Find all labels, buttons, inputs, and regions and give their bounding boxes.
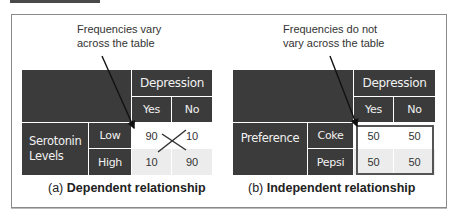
note-line: vary across the table [283,36,385,50]
column-header-no: No [394,97,435,122]
column-group-header: Depression [132,70,212,96]
column-header-yes: Yes [354,97,393,122]
corner-cell [22,70,131,122]
row-group-line: Levels [29,149,64,164]
note-line: across the table [77,36,161,50]
caption-independent: (b) Independent relationship [248,181,415,195]
caption-title: Dependent relationship [67,181,206,195]
caption-prefix: (b) [248,181,263,195]
caption-prefix: (a) [48,181,63,195]
panel-independent: Frequencies do not vary across the table… [229,15,446,207]
row-group-header: Preference [233,123,307,175]
highlight-box [356,125,434,175]
caption-dependent: (a) Dependent relationship [48,181,206,195]
contingency-table-independent: Depression Yes No Preference Coke Pepsi … [233,70,435,175]
row-group-line: Serotonin [29,134,82,149]
row-header-pepsi: Pepsi [308,149,353,175]
note-line: Frequencies vary [77,22,161,36]
caption-title: Independent relationship [267,181,416,195]
column-header-yes: Yes [132,97,171,122]
contingency-table-dependent: Depression Yes No Serotonin Levels Low H… [22,70,212,175]
note-line: Frequencies do not [283,22,385,36]
top-decorative-bar [10,0,100,3]
note-frequencies-do-not-vary: Frequencies do not vary across the table [283,22,385,50]
figure-frame: Frequencies vary across the table Depres… [11,14,447,208]
row-header-low: Low [89,123,131,148]
note-frequencies-vary: Frequencies vary across the table [77,22,161,50]
column-group-header: Depression [354,70,435,96]
cell-low-yes: 90 [132,123,171,148]
panel-dependent: Frequencies vary across the table Depres… [12,15,229,207]
row-group-header: Serotonin Levels [22,123,88,175]
cell-high-yes: 10 [132,149,171,175]
cell-low-no: 10 [172,123,212,148]
corner-cell [233,70,353,122]
row-header-high: High [89,149,131,175]
column-header-no: No [172,97,212,122]
cell-high-no: 90 [172,149,212,175]
row-header-coke: Coke [308,123,353,148]
cut-off-text-strip [10,212,450,219]
